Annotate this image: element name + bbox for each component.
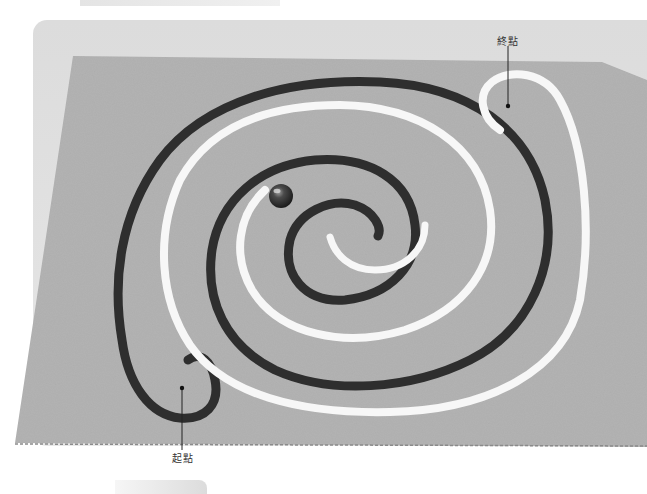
bottom-tab-remnant — [115, 480, 207, 494]
end-pointer-dot — [506, 104, 510, 108]
end-point-label: 終點 — [497, 33, 518, 48]
marble-highlight — [274, 189, 281, 193]
start-pointer-dot — [180, 386, 184, 390]
start-point-label: 起點 — [172, 450, 193, 465]
marble — [269, 184, 293, 208]
